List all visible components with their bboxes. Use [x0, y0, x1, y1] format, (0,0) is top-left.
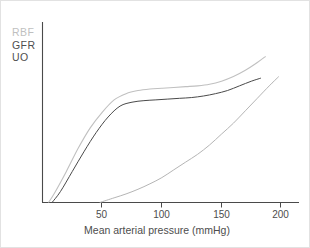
- legend-item-uo: UO: [12, 51, 35, 64]
- legend: RBF GFR UO: [12, 26, 35, 64]
- legend-item-gfr: GFR: [12, 39, 35, 52]
- legend-label-uo: UO: [12, 51, 29, 63]
- x-tick-label-200: 200: [272, 209, 289, 220]
- legend-label-rbf: RBF: [12, 26, 34, 38]
- figure-container: 50 100 150 200 Mean arterial pressure (m…: [0, 0, 310, 248]
- legend-item-rbf: RBF: [12, 26, 35, 39]
- x-tick-label-100: 100: [153, 209, 170, 220]
- x-axis-title: Mean arterial pressure (mmHg): [84, 224, 230, 236]
- series-line-gfr: [52, 78, 261, 202]
- x-tick-label-150: 150: [213, 209, 230, 220]
- autoregulation-chart: 50 100 150 200 Mean arterial pressure (m…: [1, 1, 310, 248]
- legend-label-gfr: GFR: [12, 39, 35, 51]
- series-line-uo: [100, 77, 279, 203]
- x-tick-label-50: 50: [96, 209, 108, 220]
